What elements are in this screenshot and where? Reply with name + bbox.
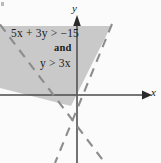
coordinate-plane-svg: [0, 0, 161, 163]
inequality-graph-figure: 5x + 3y > −15 and y > 3x y x: [0, 0, 161, 163]
shaded-solution-region: [0, 26, 111, 106]
